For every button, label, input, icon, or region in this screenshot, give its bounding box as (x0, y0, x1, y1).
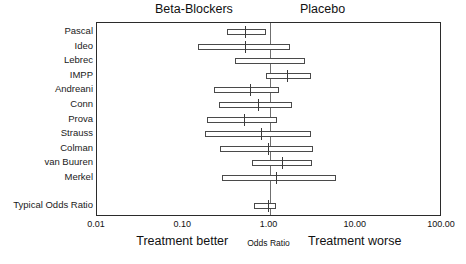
study-label: Andreani (0, 83, 93, 94)
study-label: Pascal (0, 25, 93, 36)
study-label: Merkel (0, 171, 93, 182)
axis-caption-left: Treatment better (136, 234, 228, 248)
confidence-interval-bar (214, 87, 279, 93)
confidence-interval-bar (222, 175, 336, 181)
confidence-interval-bar (205, 131, 311, 137)
study-label: IMPP (0, 69, 93, 80)
study-label: Strauss (0, 127, 93, 138)
point-estimate-marker (268, 143, 269, 155)
point-estimate-marker (282, 157, 283, 169)
point-estimate-marker (250, 84, 251, 96)
axis-caption-center: Odds Ratio (247, 238, 290, 248)
point-estimate-marker (287, 70, 288, 82)
group-header-treatment: Beta-Blockers (155, 2, 233, 16)
x-tick-label: 0.10 (173, 219, 191, 229)
point-estimate-marker (245, 26, 246, 38)
confidence-interval-bar (266, 73, 311, 79)
study-label: Conn (0, 98, 93, 109)
summary-interval-bar (254, 203, 275, 209)
plot-area (96, 22, 441, 216)
point-estimate-marker (258, 99, 259, 111)
point-estimate-marker (268, 200, 269, 212)
point-estimate-marker (245, 41, 246, 53)
point-estimate-marker (244, 114, 245, 126)
study-label: Ideo (0, 40, 93, 51)
x-tick-label: 0.01 (87, 219, 105, 229)
confidence-interval-bar (219, 102, 292, 108)
axis-caption-right: Treatment worse (308, 234, 401, 248)
confidence-interval-bar (207, 117, 277, 123)
confidence-interval-bar (235, 58, 304, 64)
x-tick-label: 100.00 (427, 219, 455, 229)
confidence-interval-bar (227, 29, 266, 35)
study-label: Lebrec (0, 54, 93, 65)
forest-plot-figure: Beta-Blockers Placebo PascalIdeoLebrecIM… (0, 0, 466, 264)
x-tick-label: 10.00 (343, 219, 366, 229)
study-label: van Buuren (0, 156, 93, 167)
point-estimate-marker (276, 172, 277, 184)
group-header-control: Placebo (300, 2, 345, 16)
study-label: Prova (0, 113, 93, 124)
study-label: Colman (0, 142, 93, 153)
x-tick-label: 1.00 (260, 219, 278, 229)
study-label: Typical Odds Ratio (0, 199, 93, 210)
point-estimate-marker (261, 128, 262, 140)
